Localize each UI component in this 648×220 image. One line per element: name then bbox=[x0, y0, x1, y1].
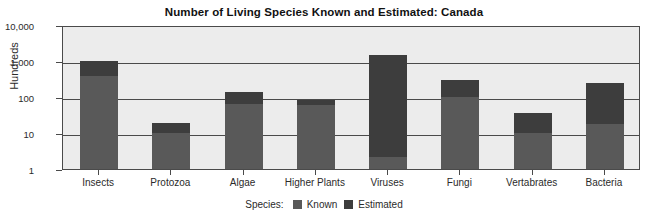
x-axis-tick-label: Bacteria bbox=[586, 177, 623, 188]
bar-bacteria bbox=[586, 83, 624, 169]
x-axis-tick-label: Vertabrates bbox=[506, 177, 557, 188]
gridline bbox=[63, 63, 639, 64]
bar-segment-estimated bbox=[80, 61, 118, 76]
legend-item-estimated: Estimated bbox=[344, 199, 402, 210]
x-axis-tick-mark bbox=[387, 170, 388, 175]
bar-insects bbox=[80, 61, 118, 169]
bar-viruses bbox=[369, 55, 407, 169]
bar-fungi bbox=[441, 80, 479, 169]
x-axis-tick-mark bbox=[243, 170, 244, 175]
bar-segment-known bbox=[441, 97, 479, 169]
y-axis-tick-label: 100 bbox=[0, 93, 34, 104]
legend-item-known: Known bbox=[293, 199, 338, 210]
legend-label: Known bbox=[307, 199, 338, 210]
legend-swatch-known bbox=[293, 200, 302, 209]
bar-segment-known bbox=[297, 105, 335, 169]
legend-label: Estimated bbox=[358, 199, 402, 210]
y-axis-tick-label: 1 bbox=[0, 165, 34, 176]
legend-swatch-estimated bbox=[344, 200, 353, 209]
bar-segment-known bbox=[369, 157, 407, 169]
chart-legend: Species: KnownEstimated bbox=[0, 199, 648, 210]
bar-segment-known bbox=[152, 133, 190, 169]
bar-protozoa bbox=[152, 123, 190, 169]
bar-segment-estimated bbox=[586, 83, 624, 123]
x-axis-tick-label: Fungi bbox=[447, 177, 472, 188]
x-axis-tick-mark bbox=[532, 170, 533, 175]
y-axis-tick-label: 1,000 bbox=[0, 57, 34, 68]
bar-segment-estimated bbox=[369, 55, 407, 157]
bar-segment-estimated bbox=[514, 113, 552, 133]
x-axis-tick-label: Viruses bbox=[371, 177, 404, 188]
bar-segment-estimated bbox=[441, 80, 479, 97]
bar-algae bbox=[225, 92, 263, 169]
bar-segment-known bbox=[586, 124, 624, 169]
x-axis-tick-mark bbox=[170, 170, 171, 175]
y-axis-tick-label: 10 bbox=[0, 129, 34, 140]
legend-title: Species: bbox=[245, 199, 283, 210]
x-axis-tick-label: Protozoa bbox=[150, 177, 190, 188]
x-axis-tick-mark bbox=[315, 170, 316, 175]
x-axis-tick-label: Higher Plants bbox=[285, 177, 345, 188]
bar-segment-estimated bbox=[225, 92, 263, 104]
y-axis-tick-mark bbox=[56, 170, 62, 171]
bar-vertabrates bbox=[514, 113, 552, 169]
bar-segment-known bbox=[80, 76, 118, 169]
gridline bbox=[63, 135, 639, 136]
bar-segment-known bbox=[514, 133, 552, 169]
x-axis-tick-label: Insects bbox=[82, 177, 114, 188]
x-axis-tick-mark bbox=[459, 170, 460, 175]
bar-segment-known bbox=[225, 104, 263, 169]
bar-higher-plants bbox=[297, 100, 335, 169]
chart-figure: Number of Living Species Known and Estim… bbox=[0, 0, 648, 220]
x-axis-tick-label: Algae bbox=[230, 177, 256, 188]
y-axis-tick-label: 10,000 bbox=[0, 21, 34, 32]
x-axis-tick-mark bbox=[98, 170, 99, 175]
x-axis-tick-mark bbox=[604, 170, 605, 175]
bar-segment-estimated bbox=[152, 123, 190, 133]
plot-area bbox=[62, 26, 640, 170]
chart-title: Number of Living Species Known and Estim… bbox=[0, 6, 648, 18]
gridline bbox=[63, 99, 639, 100]
